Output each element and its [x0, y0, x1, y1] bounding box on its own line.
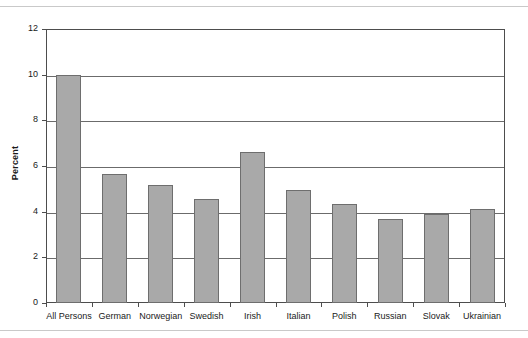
- x-tick-mark: [46, 303, 47, 307]
- x-tick-mark: [184, 303, 185, 307]
- bar: [332, 204, 357, 303]
- bar: [148, 185, 173, 303]
- bar: [240, 152, 265, 303]
- bar: [378, 219, 403, 303]
- x-tick-mark: [505, 303, 506, 307]
- x-tick-mark: [276, 303, 277, 307]
- bar: [102, 174, 127, 303]
- bar: [56, 75, 81, 303]
- x-tick-mark: [413, 303, 414, 307]
- x-tick-mark: [138, 303, 139, 307]
- bar: [286, 190, 311, 303]
- bar-chart-figure: Percent 024681012 All PersonsGermanNorwe…: [0, 0, 528, 338]
- x-tick-mark: [230, 303, 231, 307]
- x-tick-mark: [459, 303, 460, 307]
- bar: [470, 209, 495, 303]
- x-tick-mark: [321, 303, 322, 307]
- bar: [194, 199, 219, 303]
- bar: [424, 214, 449, 303]
- x-tick-mark: [367, 303, 368, 307]
- x-tick-mark: [92, 303, 93, 307]
- bar-series: [0, 0, 528, 338]
- x-tick-label: Ukrainian: [451, 311, 513, 321]
